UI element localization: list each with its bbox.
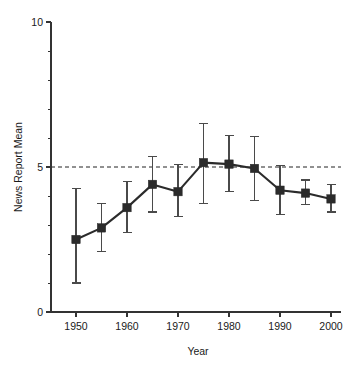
y-tick-label-0: 0 — [37, 306, 43, 318]
data-point-1975 — [199, 158, 207, 166]
data-point-1995 — [301, 189, 309, 197]
chart-figure: 0510 195019601970198019902000 Year News … — [0, 0, 355, 370]
y-tick-label-5: 5 — [37, 161, 43, 173]
data-point-1965 — [148, 180, 156, 188]
data-point-1955 — [97, 224, 105, 232]
data-point-1980 — [225, 160, 233, 168]
x-tick-label-1970: 1970 — [166, 320, 190, 332]
data-point-1970 — [174, 187, 182, 195]
x-tick-label-1960: 1960 — [115, 320, 139, 332]
data-point-1960 — [123, 203, 131, 211]
x-tick-label-1950: 1950 — [64, 320, 88, 332]
x-tick-label-2000: 2000 — [319, 320, 343, 332]
x-tick-label-1980: 1980 — [217, 320, 241, 332]
x-tick-label-1990: 1990 — [268, 320, 292, 332]
y-axis-title: News Report Mean — [12, 122, 24, 212]
data-point-2000 — [327, 195, 335, 203]
data-point-1985 — [250, 164, 258, 172]
y-tick-label-10: 10 — [31, 16, 43, 28]
x-axis-title: Year — [187, 345, 209, 357]
data-point-1990 — [276, 186, 284, 194]
news-report-mean-line-chart: 0510 195019601970198019902000 Year News … — [0, 0, 355, 370]
data-point-1950 — [72, 235, 80, 243]
